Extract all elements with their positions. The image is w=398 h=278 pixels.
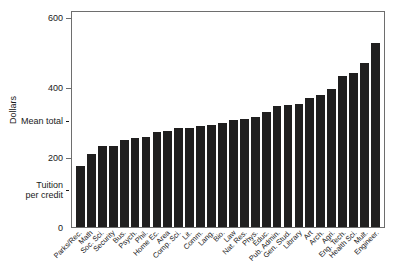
reference-mean-total-label: Mean total	[0, 116, 63, 126]
bar	[240, 119, 249, 228]
bar	[305, 98, 314, 228]
bar	[98, 146, 107, 227]
y-tick-400-label: 400	[0, 83, 63, 93]
bar	[109, 146, 118, 227]
bar	[76, 166, 85, 227]
x-axis-label: Parks/Rec.	[52, 229, 83, 260]
bar-chart-figure: Dollars 600 400 Mean total 200 Tuition p…	[0, 0, 398, 278]
plot-area	[71, 11, 385, 228]
bar	[229, 120, 238, 227]
bar	[262, 112, 271, 228]
bar	[131, 138, 140, 227]
bar	[371, 43, 380, 227]
bar	[295, 104, 304, 227]
y-tick-200-label: 200	[0, 153, 63, 163]
bar	[185, 128, 194, 227]
bar	[316, 95, 325, 227]
reference-tuition-label: Tuition per credit	[0, 180, 63, 200]
bar	[251, 117, 260, 227]
bar	[174, 128, 183, 227]
bar	[273, 106, 282, 227]
bar	[120, 140, 129, 227]
reference-tuition-label-line2: per credit	[0, 190, 63, 200]
reference-tuition-label-line1: Tuition	[0, 180, 63, 190]
bar	[327, 89, 336, 227]
bar	[207, 125, 216, 227]
bar	[87, 154, 96, 227]
bar	[142, 137, 151, 227]
y-tick-600-label: 600	[0, 13, 63, 23]
bar-series	[72, 12, 384, 227]
bar	[284, 105, 293, 228]
bar	[218, 123, 227, 227]
x-axis-labels: Parks/Rec.MathSoc. Sci.SecurityBus.Psych…	[71, 229, 385, 278]
bar	[338, 76, 347, 227]
bar	[153, 132, 162, 227]
y-tick-0-label: 0	[0, 223, 63, 233]
bar	[163, 131, 172, 227]
bar	[360, 63, 369, 228]
bar	[196, 126, 205, 227]
bar	[349, 73, 358, 227]
